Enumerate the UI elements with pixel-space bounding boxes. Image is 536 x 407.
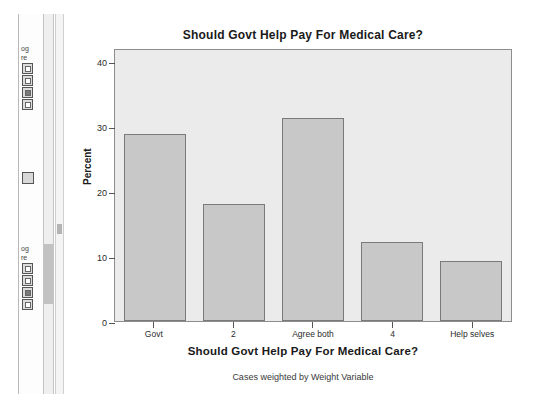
table-icon[interactable] bbox=[22, 75, 33, 86]
side-panel-text-fragment-og-lower: og bbox=[19, 244, 41, 253]
chart-container: Should Govt Help Pay For Medical Care? P… bbox=[70, 0, 536, 407]
x-axis-ticks bbox=[114, 322, 512, 328]
bar bbox=[282, 118, 344, 321]
x-axis-label: Should Govt Help Pay For Medical Care? bbox=[70, 345, 536, 357]
chart-icon-lower[interactable] bbox=[22, 287, 33, 298]
chart-footnote: Cases weighted by Weight Variable bbox=[70, 372, 536, 382]
bar bbox=[440, 261, 502, 321]
x-tick-label: 4 bbox=[362, 329, 424, 339]
side-panel-icon-group-lower bbox=[19, 263, 41, 310]
side-panel-entry-top[interactable]: og re bbox=[19, 44, 41, 111]
y-tick-label: 40 bbox=[97, 58, 107, 68]
bar bbox=[124, 134, 186, 321]
x-tick-mark bbox=[312, 322, 313, 328]
y-tick-label: 0 bbox=[102, 318, 107, 328]
x-tick-mark bbox=[392, 322, 393, 328]
x-tick-cell bbox=[202, 322, 264, 328]
x-tick-mark bbox=[472, 322, 473, 328]
bar-series bbox=[115, 50, 511, 321]
side-panel-scrollbar[interactable] bbox=[43, 14, 54, 394]
scrollbar-thumb[interactable] bbox=[44, 244, 53, 304]
y-axis-label: Percent bbox=[82, 148, 93, 185]
x-tick-cell bbox=[282, 322, 344, 328]
x-tick-mark bbox=[233, 322, 234, 328]
bar bbox=[203, 204, 265, 321]
side-panel-entry-lower[interactable]: og re bbox=[19, 244, 41, 311]
side-panel-edge bbox=[55, 14, 64, 394]
x-tick-cell bbox=[123, 322, 185, 328]
note-icon-lower[interactable] bbox=[22, 299, 33, 310]
x-tick-label: Help selves bbox=[441, 329, 503, 339]
document-icon[interactable] bbox=[22, 63, 33, 74]
x-axis-tick-labels: Govt2Agree both4Help selves bbox=[114, 329, 512, 339]
y-tick-label: 30 bbox=[97, 123, 107, 133]
side-panel-text-fragment-re: re bbox=[19, 53, 41, 62]
clipped-side-panel: og re og re bbox=[0, 0, 70, 407]
x-tick-cell bbox=[362, 322, 424, 328]
chart-title: Should Govt Help Pay For Medical Care? bbox=[70, 28, 536, 42]
side-panel-icon-group bbox=[19, 63, 41, 110]
side-panel-icon-standalone[interactable] bbox=[22, 172, 34, 184]
x-tick-mark bbox=[153, 322, 154, 328]
chart-icon[interactable] bbox=[22, 87, 33, 98]
note-icon[interactable] bbox=[22, 99, 33, 110]
edge-marker bbox=[57, 224, 62, 234]
document-icon-lower[interactable] bbox=[22, 263, 33, 274]
table-icon-lower[interactable] bbox=[22, 275, 33, 286]
x-tick-label: Agree both bbox=[282, 329, 344, 339]
side-panel-text-fragment-re-lower: re bbox=[19, 253, 41, 262]
x-tick-label: 2 bbox=[202, 329, 264, 339]
side-panel-text-fragment-og: og bbox=[19, 44, 41, 53]
y-tick-label: 10 bbox=[97, 253, 107, 263]
x-tick-cell bbox=[441, 322, 503, 328]
x-tick-label: Govt bbox=[123, 329, 185, 339]
bar bbox=[361, 242, 423, 321]
y-tick-label: 20 bbox=[97, 188, 107, 198]
plot-area: 010203040 bbox=[114, 49, 512, 322]
